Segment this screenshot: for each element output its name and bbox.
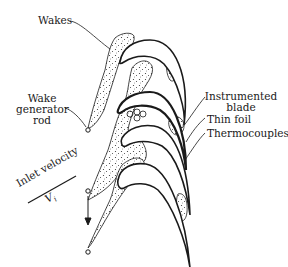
label-thin-foil: Thin foil <box>207 114 251 125</box>
label-wake-generator-rod-line3: rod <box>16 115 68 126</box>
rod-1 <box>86 128 90 132</box>
label-instrumented-blade-line2: blade <box>204 102 278 113</box>
wake-blade-diagram: Wakes Wake generator rod Instrumented bl… <box>0 0 288 267</box>
wake-generator-rods <box>86 128 90 254</box>
rod-2 <box>86 189 90 193</box>
leader-wakes <box>70 21 110 49</box>
leader-thin-foil <box>186 118 205 142</box>
label-wake-generator-rod: Wake generator rod <box>16 93 68 126</box>
label-wakes: Wakes <box>38 15 72 26</box>
rod-3 <box>86 250 90 254</box>
label-thermocouples: Thermocouples <box>207 128 288 139</box>
rod-motion-arrow <box>85 196 91 225</box>
label-instrumented-blade: Instrumented blade <box>204 91 278 113</box>
leader-thermocouples <box>185 133 205 160</box>
blade-4 <box>118 164 190 267</box>
